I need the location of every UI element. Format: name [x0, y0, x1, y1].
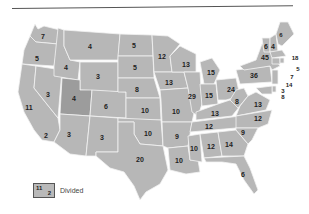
- state-value-WA: 7: [41, 33, 45, 40]
- state-value-WI: 13: [182, 61, 190, 68]
- state-value-NV: 3: [46, 91, 50, 98]
- state-value-NJ: 14: [286, 82, 293, 88]
- state-value-OK: 10: [144, 130, 152, 137]
- legend-label: Divided: [60, 187, 83, 194]
- state-MA: [270, 50, 286, 58]
- state-value-VT: 6: [264, 43, 268, 50]
- state-value-MO: 10: [172, 108, 180, 115]
- state-value-NE: 8: [135, 86, 139, 93]
- state-value-CA-S: 2: [44, 132, 48, 139]
- state-value-IN: 15: [205, 92, 213, 99]
- state-NJ: [272, 70, 278, 84]
- state-value-MD: 8: [281, 94, 284, 100]
- state-value-KS: 10: [141, 107, 149, 114]
- state-value-GA: 14: [225, 141, 233, 148]
- state-value-PA: 36: [250, 72, 258, 79]
- state-value-CO: 6: [104, 103, 108, 110]
- state-value-CT: 7: [290, 74, 293, 80]
- state-value-SC: 9: [241, 129, 245, 136]
- state-value-CA-N: 11: [25, 104, 32, 111]
- state-value-MN: 12: [158, 53, 166, 60]
- state-value-SD: 5: [133, 64, 137, 71]
- legend: 11 2 Divided: [33, 183, 83, 198]
- state-value-TX: 20: [136, 156, 144, 163]
- state-value-UT: 4: [72, 95, 76, 102]
- state-value-KY: 13: [211, 110, 219, 117]
- state-value-ME: 6: [279, 32, 282, 38]
- legend-swatch-divided: 11 2: [33, 183, 55, 198]
- state-value-ID: 4: [64, 64, 68, 71]
- state-value-AR: 9: [175, 133, 179, 140]
- state-value-NH: 4: [271, 43, 275, 50]
- state-FL: [204, 156, 258, 194]
- state-value-MS: 10: [190, 145, 198, 152]
- state-value-RI: 5: [296, 66, 299, 72]
- state-value-IL: 29: [188, 93, 196, 100]
- state-value-ND: 5: [132, 42, 136, 49]
- state-value-OH: 24: [227, 86, 235, 93]
- state-CT: [272, 58, 280, 64]
- state-value-NC: 12: [254, 115, 262, 122]
- legend-swatch-top-value: 11: [36, 185, 42, 191]
- state-value-AZ: 3: [67, 131, 71, 138]
- us-map: [0, 0, 309, 214]
- state-value-MI: 15: [207, 69, 215, 76]
- state-MD: [256, 86, 272, 94]
- state-value-OR: 5: [35, 55, 39, 62]
- state-value-VA: 13: [254, 101, 262, 108]
- state-value-TN: 12: [205, 123, 213, 130]
- state-DE: [272, 86, 276, 92]
- state-value-FL: 6: [241, 171, 245, 178]
- state-value-NY: 45: [261, 54, 269, 61]
- state-value-NM: 3: [100, 134, 104, 141]
- state-value-WV: 8: [235, 98, 239, 105]
- state-value-WY: 3: [96, 73, 100, 80]
- state-value-MA: 18: [292, 55, 299, 61]
- state-RI: [280, 58, 284, 63]
- legend-swatch-bottom-value: 2: [48, 190, 51, 196]
- state-value-AL: 12: [207, 143, 215, 150]
- state-value-MT: 4: [88, 43, 92, 50]
- state-value-LA: 10: [175, 157, 183, 164]
- state-AZ: [54, 114, 90, 156]
- state-value-IA: 13: [165, 79, 173, 86]
